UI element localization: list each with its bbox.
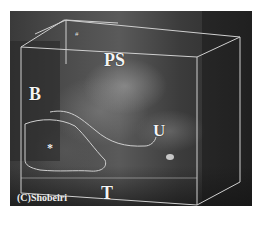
outline-urethra [50, 111, 156, 146]
wireframe-top-right-edge [197, 37, 240, 57]
label-star: * [47, 141, 53, 156]
label-t: T [101, 183, 113, 204]
label-b: B [29, 84, 41, 105]
label-ps: PS [104, 50, 125, 71]
label-marker: # [75, 30, 79, 38]
wireframe-bottom-right-edge [197, 182, 240, 205]
bright-spot [166, 154, 174, 160]
outline-star-region [25, 120, 106, 171]
label-u: U [153, 121, 165, 141]
copyright-text: (C)Shobeiri [17, 192, 67, 203]
scale-bar-left [35, 20, 66, 34]
wireframe-top-back-edge [64, 20, 240, 37]
